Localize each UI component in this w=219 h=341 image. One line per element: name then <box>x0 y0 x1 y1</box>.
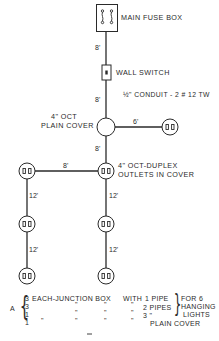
duplex-outlet-icon-left <box>19 163 35 179</box>
row3-ditto-3: " <box>131 309 134 317</box>
materials-group-label: A <box>10 305 15 313</box>
duplex-outlet-icon-center-3 <box>98 268 114 284</box>
row1-item: EACH-JUNCTION BOX <box>32 295 111 303</box>
row1-spec: 1 PIPE <box>145 295 169 303</box>
dim-left-run-2: 12' <box>29 246 38 254</box>
row2-ditto-1: " <box>75 301 78 309</box>
dim-center-run-1: 12' <box>109 192 118 200</box>
dim-plain-to-right: 6' <box>133 118 138 126</box>
wall-switch-icon <box>102 65 111 80</box>
row4-ditto-1: " <box>75 317 78 325</box>
row4-ditto-2: " <box>104 317 107 325</box>
duplex-label-line2: OUTLETS IN COVER <box>118 171 194 179</box>
conduit-label: ½" CONDUIT - 2 # 12 TW <box>123 91 210 99</box>
note-line1: FOR 6 <box>181 295 203 303</box>
note-line2: HANGING <box>181 303 216 311</box>
duplex-outlet-icon-center <box>98 163 114 179</box>
duplex-label-line1: 4" OCT-DUPLEX <box>118 162 178 170</box>
main-fuse-box-label: MAIN FUSE BOX <box>121 14 183 22</box>
plain-cover-label-line1: 4" OCT <box>51 113 77 121</box>
dim-fuse-to-switch: 8' <box>95 44 100 52</box>
wall-switch-label: WALL SWITCH <box>116 69 170 77</box>
junction-box-plain-icon <box>97 118 115 136</box>
duplex-outlet-icon-left-2 <box>19 216 35 232</box>
dim-plain-to-center: 8' <box>95 145 100 153</box>
row4-ditto-3: " <box>131 317 134 325</box>
row3-ditto-2: " <box>104 309 107 317</box>
plain-cover-label-line2: PLAIN COVER <box>41 122 94 130</box>
row2-spec: 2 PIPES <box>143 304 172 312</box>
dim-center-to-left: 8' <box>63 162 68 170</box>
dim-left-run-1: 12' <box>29 192 38 200</box>
row4-spec: PLAIN COVER <box>150 320 200 328</box>
duplex-outlet-icon-center-2 <box>98 216 114 232</box>
duplex-outlet-icon-right <box>162 119 178 135</box>
dim-switch-to-plain: 8' <box>95 96 100 104</box>
row2-ditto-2: " <box>104 301 107 309</box>
row3-spec: 3 " <box>143 312 152 320</box>
note-line3: LIGHTS <box>183 311 210 319</box>
row4-qty: 1 <box>25 319 29 327</box>
row4-ditto-0: " <box>41 317 44 325</box>
dim-center-run-2: 12' <box>109 246 118 254</box>
row2-qty: 3 <box>25 303 29 311</box>
row3-qty: 1 <box>25 311 29 319</box>
row2-ditto-3: " <box>131 301 134 309</box>
fuse-box-icon <box>97 5 118 32</box>
duplex-outlet-icon-left-3 <box>19 268 35 284</box>
row1-qty: 3 <box>25 295 29 303</box>
row3-ditto-1: " <box>75 309 78 317</box>
